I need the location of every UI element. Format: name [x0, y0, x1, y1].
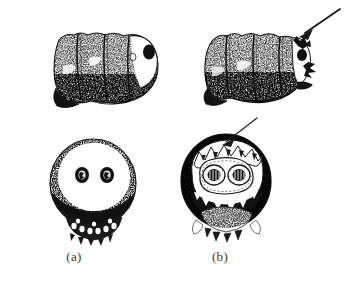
larva-terminal-affected-drawing	[168, 128, 286, 246]
larva-lateral-uninfected-drawing	[45, 22, 175, 122]
panel-label-b: (b)	[200, 249, 240, 265]
panel-b-terminal-view	[168, 128, 286, 246]
ocellar-spot	[143, 45, 155, 60]
panel-a-terminal-view	[38, 133, 148, 248]
panel-b-lateral-view	[196, 22, 331, 122]
larva-lateral-affected-drawing	[196, 22, 331, 122]
larva-terminal-uninfected-drawing	[38, 133, 148, 248]
panel-label-a: (a)	[54, 249, 94, 265]
figure-plate: (a) (b)	[0, 0, 348, 281]
pale-spot	[130, 54, 136, 61]
pale-central-field	[58, 143, 130, 211]
panel-a-lateral-view	[45, 22, 175, 122]
